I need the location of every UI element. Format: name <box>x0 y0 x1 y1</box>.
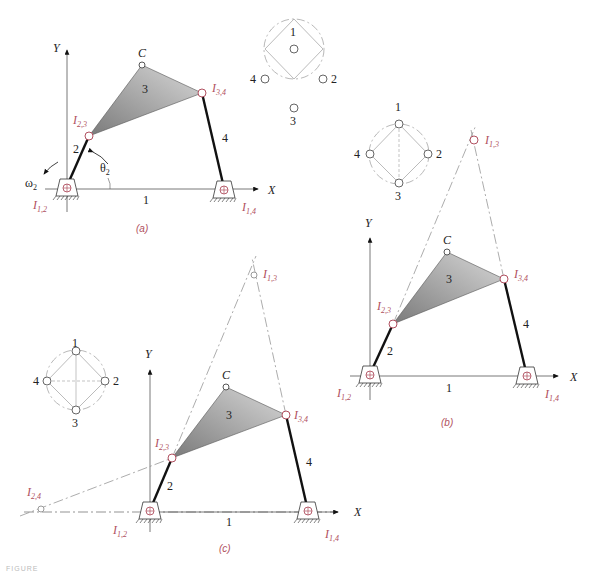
point-c <box>139 62 145 68</box>
svg-text:1: 1 <box>395 100 401 114</box>
point-c <box>444 249 450 255</box>
ic-34-label: I3,4 <box>211 81 226 97</box>
ic-13-label: I1,3 <box>262 267 277 283</box>
instant-centers-figure: Y X C 3 2 4 1 θ2 ω2 I1,2 I2,3 I3,4 I1,4 … <box>0 0 594 572</box>
link-4-label: 4 <box>222 131 228 145</box>
link-2-label: 2 <box>167 479 173 493</box>
ic-34-label: I3,4 <box>513 267 528 283</box>
ground-pivot-12 <box>136 502 162 523</box>
svg-text:2: 2 <box>331 72 337 86</box>
ic-24-label: I2,4 <box>26 485 41 501</box>
linear-graph-a: 1 2 3 4 <box>250 19 337 128</box>
svg-text:4: 4 <box>250 72 256 86</box>
svg-text:3: 3 <box>395 189 401 203</box>
ic-23-label: I2,3 <box>376 299 391 315</box>
pin-23 <box>85 132 93 140</box>
link-2-label: 2 <box>73 142 79 156</box>
ic-14-label: I1,4 <box>324 527 339 543</box>
y-axis-label: Y <box>145 347 153 361</box>
x-axis-label: X <box>353 505 362 519</box>
pin-34 <box>500 275 508 283</box>
ic-13-label: I1,3 <box>484 133 499 149</box>
svg-text:3: 3 <box>290 114 296 128</box>
ic-23-label: I2,3 <box>72 113 87 129</box>
ic-34-label: I3,4 <box>293 408 308 424</box>
link-3-label: 3 <box>142 82 148 96</box>
link-3-label: 3 <box>446 272 452 286</box>
pin-34 <box>198 89 206 97</box>
link-4-label: 4 <box>306 455 312 469</box>
coupler-link-3 <box>172 387 286 458</box>
svg-text:4: 4 <box>354 147 360 161</box>
theta-arc <box>108 178 110 189</box>
y-axis-label: Y <box>53 41 61 55</box>
point-c-label: C <box>222 368 231 382</box>
link-3-label: 3 <box>226 408 232 422</box>
rocker-link-4 <box>202 93 224 188</box>
ground-pivot-14 <box>294 502 320 523</box>
link-4-label: 4 <box>523 317 529 331</box>
pin-13 <box>251 272 257 278</box>
ground-pivot-12 <box>356 366 382 387</box>
ic-12-label: I1,2 <box>336 386 351 402</box>
link-2-label: 2 <box>387 344 393 358</box>
x-axis-label: X <box>267 183 276 197</box>
panel-a-caption: (a) <box>136 223 148 234</box>
node-2 <box>319 75 327 83</box>
pin-13 <box>470 136 478 144</box>
ic-14-label: I1,4 <box>544 387 559 403</box>
svg-text:4: 4 <box>33 374 39 388</box>
linear-graph-b: 1 2 3 4 <box>354 100 442 203</box>
node-1 <box>290 45 298 53</box>
omega-label: ω2 <box>25 176 37 192</box>
ic-23-label: I2,3 <box>154 436 169 452</box>
node-3 <box>290 104 298 112</box>
panel-c: Y X C 3 2 4 1 I1,2 I2,3 I3,4 I1,4 I1,3 I… <box>20 256 362 554</box>
link-1-label: 1 <box>446 381 452 395</box>
svg-text:2: 2 <box>436 147 442 161</box>
panel-c-caption: (c) <box>219 543 231 554</box>
linear-graph-c: 1 2 3 4 <box>33 336 119 430</box>
pin-23 <box>389 320 397 328</box>
ic-12-label: I1,2 <box>32 198 47 214</box>
point-c <box>223 384 229 390</box>
svg-text:2: 2 <box>113 374 119 388</box>
panel-b: Y X C 3 2 4 1 I1,2 I2,3 I3,4 I1,4 I1,3 (… <box>336 100 578 428</box>
omega-arrow-icon <box>44 162 58 174</box>
y-axis-label: Y <box>365 216 373 230</box>
point-c-label: C <box>138 46 147 60</box>
svg-text:1: 1 <box>290 25 296 39</box>
node-4 <box>261 75 269 83</box>
svg-text:3: 3 <box>72 416 78 430</box>
ground-pivot-14 <box>513 367 539 388</box>
coupler-link-3 <box>393 252 504 324</box>
coupler-link-3 <box>89 65 202 136</box>
ic-12-label: I1,2 <box>112 523 127 539</box>
ground-pivot-12 <box>53 179 79 200</box>
point-c-label: C <box>443 233 452 247</box>
x-axis-label: X <box>569 370 578 384</box>
pin-23 <box>168 454 176 462</box>
svg-text:1: 1 <box>72 336 78 350</box>
ic-14-label: I1,4 <box>241 200 256 216</box>
pin-24 <box>38 506 44 512</box>
panel-a: Y X C 3 2 4 1 θ2 ω2 I1,2 I2,3 I3,4 I1,4 … <box>25 19 337 234</box>
pin-34 <box>282 411 290 419</box>
link-1-label: 1 <box>143 193 149 207</box>
construction-line <box>471 130 504 279</box>
figure-caption: FIGURE <box>6 565 38 572</box>
link-1-label: 1 <box>226 515 232 529</box>
ground-pivot-14 <box>210 181 236 202</box>
panel-b-caption: (b) <box>441 417 453 428</box>
theta-label: θ2 <box>100 161 110 177</box>
rocker-link-4 <box>286 415 308 511</box>
